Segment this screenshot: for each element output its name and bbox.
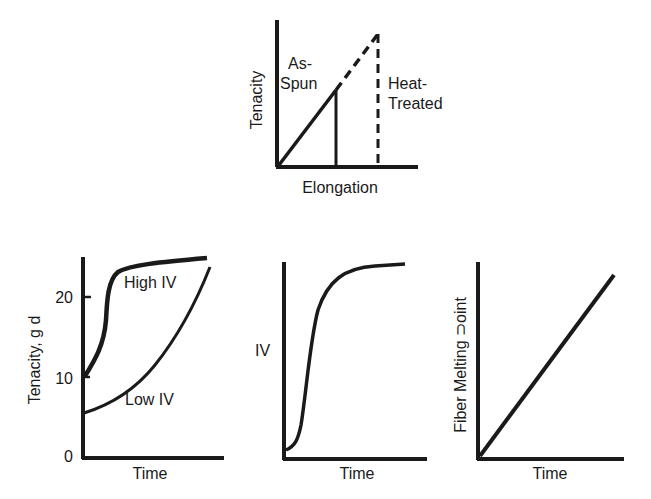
tick-label-10: 10 [55,370,73,387]
x-axis-label: Time [533,465,568,482]
heat-treated-label-1: Heat- [388,75,427,92]
tick-label-20: 20 [55,289,73,306]
melting-point-line [480,275,614,456]
y-axis-label: Tenacity, g d [26,316,43,405]
y-axis-label: Fiber Melting ⊃oint [452,297,469,433]
y-axis-label: Tenacity [248,71,265,130]
melting-point-time-chart: Fiber Melting ⊃oint Time [452,262,624,482]
as-spun-line [279,90,336,165]
high-iv-label: High IV [124,274,177,291]
iv-curve [286,264,405,450]
as-spun-label-1: As- [288,55,312,72]
figure: Tenacity Elongation As- Spun Heat- Treat… [0,0,651,499]
low-iv-label: Low IV [125,391,174,408]
as-spun-label-2: Spun [280,75,317,92]
heat-treated-label-2: Treated [388,95,443,112]
x-axis-label: Elongation [302,179,378,196]
heat-treated-line [336,34,378,90]
tick-label-0: 0 [64,448,73,465]
x-axis-label: Time [133,465,168,482]
tenacity-elongation-chart: Tenacity Elongation As- Spun Heat- Treat… [248,20,443,196]
x-axis-label: Time [340,465,375,482]
iv-time-chart: IV Time [255,262,427,482]
y-axis-label: IV [255,342,270,359]
tenacity-time-chart: 20 10 0 High IV Low IV Tenacity, g d Tim… [26,257,224,482]
